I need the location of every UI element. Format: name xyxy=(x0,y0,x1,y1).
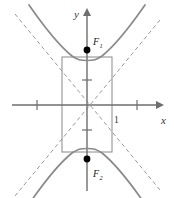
focus-upper-subscript: 1 xyxy=(100,42,103,49)
figure-canvas: F1 F2 x y 1 xyxy=(0,0,174,198)
focus-upper-label: F1 xyxy=(92,36,103,49)
y-axis-label: y xyxy=(73,8,79,20)
focus-upper-point xyxy=(84,47,91,54)
x-value-one-label: 1 xyxy=(114,115,119,125)
focus-lower-subscript: 2 xyxy=(100,174,104,181)
axis-group xyxy=(12,15,157,191)
focus-lower-label: F2 xyxy=(92,168,104,181)
x-axis-label: x xyxy=(160,114,166,126)
hyperbola-figure: F1 F2 x y 1 xyxy=(0,0,174,198)
focus-lower-point xyxy=(84,156,91,163)
